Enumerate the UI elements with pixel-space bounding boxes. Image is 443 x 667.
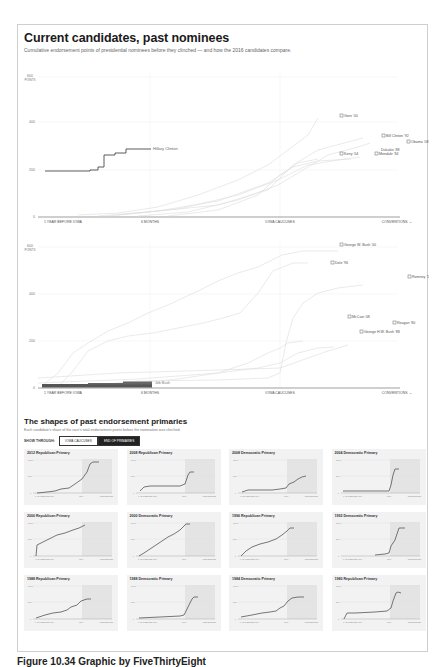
svg-text:100%: 100% xyxy=(131,585,136,587)
label-reagan-80: Reagan '80 xyxy=(397,321,415,325)
panel-title: 2008 Democratic Primary xyxy=(232,451,320,455)
panel-title: 1988 Democratic Primary xyxy=(130,577,218,581)
svg-text:100%: 100% xyxy=(336,522,341,524)
label-mccain-08: McCain '08 xyxy=(352,315,370,319)
svg-text:1 YEAR BEFORE IOWA: 1 YEAR BEFORE IOWA xyxy=(35,558,55,560)
x-label-iowa: IOWA CAUCUSES xyxy=(265,391,295,395)
svg-text:50%: 50% xyxy=(336,538,340,540)
svg-text:50%: 50% xyxy=(233,538,237,540)
republican-chart: 600 POINTS 400 200 0 Jeb Bush xyxy=(18,233,429,405)
svg-text:50%: 50% xyxy=(131,475,135,477)
svg-text:1 YEAR BEFORE IOWA: 1 YEAR BEFORE IOWA xyxy=(240,558,260,560)
svg-text:IOWA: IOWA xyxy=(79,621,85,623)
svg-text:0: 0 xyxy=(30,618,32,620)
y-unit: POINTS xyxy=(24,248,35,252)
svg-text:CONVENTIONS: CONVENTIONS xyxy=(100,621,114,623)
svg-text:0: 0 xyxy=(133,555,135,557)
svg-text:0: 0 xyxy=(133,492,135,494)
svg-text:0: 0 xyxy=(235,618,237,620)
panel-2004-dem: 2004 Democratic Primary 100%50%01 YEAR B… xyxy=(332,449,426,505)
svg-text:CONVENTIONS: CONVENTIONS xyxy=(202,495,216,497)
x-label-1-year: 1 YEAR BEFORE IOWA xyxy=(44,220,83,224)
panel-2012-rep: 2012 Republican Primary 100%50%01 YEAR B… xyxy=(24,449,118,505)
jeb-bush-label: Jeb Bush xyxy=(155,381,170,385)
svg-text:100%: 100% xyxy=(336,585,341,587)
svg-text:100%: 100% xyxy=(233,459,238,461)
y-tick-400: 400 xyxy=(29,120,35,124)
svg-text:IOWA: IOWA xyxy=(79,558,85,560)
panel-1996-rep: 1996 Republican Primary 100%50%01 YEAR B… xyxy=(229,512,323,568)
panel-title: 2000 Democratic Primary xyxy=(130,514,218,518)
svg-text:100%: 100% xyxy=(233,585,238,587)
x-label-iowa: IOWA CAUCUSES xyxy=(265,220,295,224)
x-label-conventions: CONVENTIONS → xyxy=(382,391,412,395)
label-bill-clinton-92: Bill Clinton '92 xyxy=(386,134,409,138)
svg-text:50%: 50% xyxy=(336,601,340,603)
hillary-clinton-line xyxy=(45,149,151,171)
x-label-6-months: 6 MONTHS xyxy=(141,391,160,395)
svg-text:1 YEAR BEFORE IOWA: 1 YEAR BEFORE IOWA xyxy=(240,495,260,497)
panel-title: 1980 Republican Primary xyxy=(335,577,423,581)
y-tick-200: 200 xyxy=(29,339,35,343)
panel-1988-dem: 1988 Democratic Primary 100%50%01 YEAR B… xyxy=(127,575,221,631)
hillary-clinton-label: Hillary Clinton xyxy=(153,146,178,151)
svg-text:1 YEAR BEFORE IOWA: 1 YEAR BEFORE IOWA xyxy=(138,558,158,560)
svg-text:0: 0 xyxy=(338,555,340,557)
y-tick-0: 0 xyxy=(33,386,35,390)
panel-1984-dem: 1984 Democratic Primary 100%50%01 YEAR B… xyxy=(229,575,323,631)
figure-caption: Figure 10.34 Graphic by FiveThirtyEight xyxy=(17,656,206,667)
svg-text:100%: 100% xyxy=(28,459,33,461)
svg-text:CONVENTIONS: CONVENTIONS xyxy=(100,558,114,560)
svg-text:CONVENTIONS: CONVENTIONS xyxy=(407,558,421,560)
svg-text:CONVENTIONS: CONVENTIONS xyxy=(305,621,319,623)
svg-text:0: 0 xyxy=(30,492,32,494)
panel-2008-rep: 2008 Republican Primary 100%50%01 YEAR B… xyxy=(127,449,221,505)
panel-title: 2008 Republican Primary xyxy=(130,451,218,455)
svg-text:IOWA: IOWA xyxy=(387,495,393,497)
label-kerry-04: Kerry '04 xyxy=(344,152,358,156)
panel-title: 1992 Democratic Primary xyxy=(335,514,423,518)
toggle-iowa-caucuses[interactable]: IOWA CAUCUSES xyxy=(59,436,98,446)
svg-text:CONVENTIONS: CONVENTIONS xyxy=(100,495,114,497)
label-george-hw-bush-88: George H.W. Bush '88 xyxy=(364,330,400,334)
svg-text:0: 0 xyxy=(338,618,340,620)
svg-text:IOWA: IOWA xyxy=(284,621,290,623)
page-title: Current candidates, past nominees xyxy=(24,31,229,45)
panel-title: 2012 Republican Primary xyxy=(27,451,115,455)
svg-text:100%: 100% xyxy=(131,459,136,461)
svg-text:0: 0 xyxy=(30,555,32,557)
y-tick-400: 400 xyxy=(29,292,35,296)
x-label-1-year: 1 YEAR BEFORE IOWA xyxy=(44,391,83,395)
svg-text:100%: 100% xyxy=(28,522,33,524)
panel-2000-rep: 2000 Republican Primary 100%50%01 YEAR B… xyxy=(24,512,118,568)
svg-text:100%: 100% xyxy=(336,459,341,461)
svg-text:1 YEAR BEFORE IOWA: 1 YEAR BEFORE IOWA xyxy=(138,495,158,497)
svg-text:50%: 50% xyxy=(131,601,135,603)
svg-text:50%: 50% xyxy=(131,538,135,540)
svg-text:CONVENTIONS: CONVENTIONS xyxy=(407,495,421,497)
panel-1980-rep: 1980 Republican Primary 100%50%01 YEAR B… xyxy=(332,575,426,631)
label-obama-08: Obama '08 xyxy=(411,140,428,144)
label-dole-96: Dole '96 xyxy=(335,261,348,265)
panel-2008-dem: 2008 Democratic Primary 100%50%01 YEAR B… xyxy=(229,449,323,505)
svg-text:1 YEAR BEFORE IOWA: 1 YEAR BEFORE IOWA xyxy=(240,621,260,623)
label-romney-12: Romney '12 xyxy=(412,275,429,279)
svg-text:50%: 50% xyxy=(336,475,340,477)
toggle-end-of-primaries[interactable]: END OF PRIMARIES xyxy=(98,436,140,446)
svg-text:1 YEAR BEFORE IOWA: 1 YEAR BEFORE IOWA xyxy=(35,495,55,497)
svg-text:50%: 50% xyxy=(28,475,32,477)
svg-text:IOWA: IOWA xyxy=(387,621,393,623)
svg-text:CONVENTIONS: CONVENTIONS xyxy=(202,621,216,623)
label-dukakis-88: Dukakis '88 xyxy=(381,148,399,152)
svg-text:50%: 50% xyxy=(233,601,237,603)
panel-title: 2004 Democratic Primary xyxy=(335,451,423,455)
svg-text:1 YEAR BEFORE IOWA: 1 YEAR BEFORE IOWA xyxy=(138,621,158,623)
svg-text:0: 0 xyxy=(133,618,135,620)
svg-text:IOWA: IOWA xyxy=(284,495,290,497)
panel-title: 1996 Republican Primary xyxy=(232,514,320,518)
small-multiples-grid: 2012 Republican Primary 100%50%01 YEAR B… xyxy=(24,449,424,631)
panel-1988-rep: 1988 Republican Primary 100%50%01 YEAR B… xyxy=(24,575,118,631)
x-label-conventions: CONVENTIONS → xyxy=(382,220,412,224)
toggle-label: SHOW THROUGH: xyxy=(24,439,55,443)
svg-text:CONVENTIONS: CONVENTIONS xyxy=(202,558,216,560)
